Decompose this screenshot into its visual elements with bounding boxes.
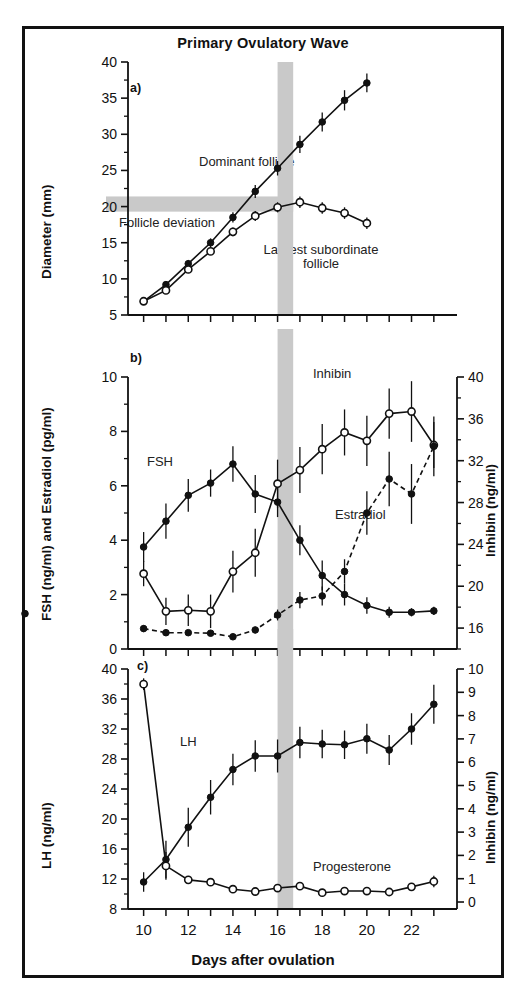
figure-frame: Primary Ovulatory Wave a) Diameter (mm) …: [22, 26, 504, 978]
y-right-tick-label: 10: [468, 661, 484, 677]
y-tick-label: 8: [109, 901, 117, 917]
data-point: [162, 287, 169, 294]
data-point: [319, 741, 326, 748]
data-point: [185, 607, 192, 614]
data-point: [363, 887, 370, 894]
data-point: [163, 518, 170, 525]
panel-b-plot: 024681016202428323640: [25, 329, 501, 629]
data-point: [185, 824, 192, 831]
follicle-deviation-band: [278, 629, 294, 909]
y-tick-label: 12: [101, 871, 117, 887]
y-right-tick-label: 9: [468, 684, 476, 700]
data-point: [140, 298, 147, 305]
data-point: [185, 492, 192, 499]
data-point: [408, 491, 415, 498]
y-tick-label: 28: [101, 751, 117, 767]
y-tick-label: 4: [109, 532, 117, 548]
data-point: [363, 220, 370, 227]
y-right-tick-label: 6: [468, 754, 476, 770]
y-right-tick-label: 24: [468, 536, 484, 552]
data-point: [207, 480, 214, 487]
y-right-tick-label: 40: [468, 369, 484, 385]
x-tick-label: 16: [269, 921, 286, 938]
data-point: [431, 701, 438, 708]
data-point: [297, 141, 304, 148]
data-point: [341, 591, 348, 598]
data-point: [22, 610, 29, 617]
data-point: [386, 747, 393, 754]
data-point: [207, 879, 214, 886]
data-point: [252, 753, 259, 760]
data-point: [185, 876, 192, 883]
data-point: [319, 572, 326, 579]
data-point: [162, 862, 169, 869]
data-point: [364, 735, 371, 742]
y-tick-label: 5: [109, 307, 117, 323]
y-right-tick-label: 2: [468, 847, 476, 863]
data-point: [431, 443, 438, 450]
panel-a: Primary Ovulatory Wave a) Diameter (mm) …: [25, 29, 501, 329]
data-point: [274, 884, 281, 891]
panel-c: c) LH (ng/ml) Inhibin (ng/ml) LH Progest…: [25, 629, 501, 981]
y-tick-label: 24: [101, 781, 117, 797]
y-tick-label: 20: [101, 811, 117, 827]
panel-c-plot: 8121620242832364001234567891010121416182…: [25, 629, 501, 981]
data-point: [319, 889, 326, 896]
follicle-deviation-band: [278, 62, 294, 315]
y-tick-label: 8: [109, 423, 117, 439]
data-point: [297, 537, 304, 544]
data-point: [252, 212, 259, 219]
data-point: [230, 766, 237, 773]
data-point: [185, 266, 192, 273]
y-tick-label: 25: [101, 162, 117, 178]
data-point: [364, 510, 371, 517]
data-point: [229, 886, 236, 893]
data-point: [296, 467, 303, 474]
data-point: [207, 248, 214, 255]
y-right-tick-label: 8: [468, 708, 476, 724]
data-point: [252, 549, 259, 556]
y-tick-label: 2: [109, 587, 117, 603]
data-point: [341, 429, 348, 436]
data-point: [274, 480, 281, 487]
follicle-deviation-band: [278, 329, 294, 649]
y-right-tick-label: 0: [468, 894, 476, 910]
data-point: [408, 883, 415, 890]
data-point: [341, 887, 348, 894]
data-point: [386, 410, 393, 417]
data-point: [252, 888, 259, 895]
y-right-tick-label: 3: [468, 824, 476, 840]
data-point: [364, 602, 371, 609]
data-point: [140, 879, 147, 886]
data-point: [430, 878, 437, 885]
data-point: [230, 214, 237, 221]
y-right-tick-label: 4: [468, 801, 476, 817]
y-tick-label: 35: [101, 90, 117, 106]
data-point: [252, 188, 259, 195]
data-point: [207, 608, 214, 615]
y-right-tick-label: 7: [468, 731, 476, 747]
data-point: [386, 888, 393, 895]
y-tick-label: 16: [101, 841, 117, 857]
data-point: [296, 883, 303, 890]
data-point: [341, 568, 348, 575]
y-tick-label: 10: [101, 271, 117, 287]
x-tick-label: 22: [403, 921, 420, 938]
y-right-tick-label: 32: [468, 453, 484, 469]
figure-root: Primary Ovulatory Wave a) Diameter (mm) …: [0, 0, 529, 1005]
y-tick-label: 15: [101, 235, 117, 251]
data-point: [162, 608, 169, 615]
data-point: [319, 119, 326, 126]
data-point: [296, 199, 303, 206]
y-tick-label: 20: [101, 199, 117, 215]
follicle-deviation-band-horizontal: [106, 196, 293, 211]
y-tick-label: 40: [101, 661, 117, 677]
panel-b: b) FSH (ng/ml) and Estradiol (pg/ml) Inh…: [25, 329, 501, 629]
x-tick-label: 10: [135, 921, 152, 938]
data-point: [431, 608, 438, 615]
data-point: [341, 209, 348, 216]
data-point: [274, 612, 281, 619]
data-point: [207, 794, 214, 801]
x-tick-label: 12: [180, 921, 197, 938]
data-point: [140, 544, 147, 551]
